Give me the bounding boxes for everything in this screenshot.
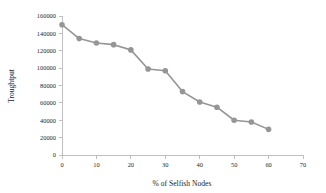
- data-point: [111, 42, 117, 48]
- data-point: [249, 119, 255, 125]
- x-tick-label: 0: [60, 161, 63, 168]
- x-tick-label: 70: [300, 161, 306, 168]
- y-tick-label: 20000: [40, 134, 56, 141]
- x-axis-title: % of Selfish Nodes: [153, 179, 212, 188]
- y-tick-label: 60000: [40, 99, 56, 106]
- data-point: [94, 40, 100, 46]
- data-point: [59, 22, 65, 28]
- y-axis-title: Troughtput: [7, 68, 16, 103]
- data-point: [214, 104, 220, 110]
- data-point: [145, 66, 151, 72]
- y-tick-label: 120000: [37, 47, 56, 54]
- y-tick-label: 80000: [40, 82, 56, 89]
- y-tick-label: 160000: [37, 12, 56, 19]
- x-tick-label: 20: [128, 161, 134, 168]
- data-point: [180, 89, 186, 95]
- data-point: [76, 36, 82, 42]
- data-point: [162, 68, 168, 74]
- data-point: [128, 47, 134, 53]
- data-point: [266, 127, 272, 133]
- x-tick-label: 40: [197, 161, 203, 168]
- line-chart: 0200004000060000800001000001200001400001…: [0, 0, 326, 193]
- x-tick-label: 60: [265, 161, 271, 168]
- x-tick-label: 30: [162, 161, 168, 168]
- data-point: [231, 117, 237, 123]
- y-tick-label: 40000: [40, 117, 56, 124]
- data-point: [197, 99, 203, 105]
- x-tick-label: 50: [231, 161, 237, 168]
- y-tick-label: 140000: [37, 30, 56, 37]
- y-tick-label: 0: [53, 151, 56, 158]
- chart-figure: 0200004000060000800001000001200001400001…: [0, 0, 326, 193]
- y-tick-label: 100000: [37, 64, 56, 71]
- y-tick-labels: 0200004000060000800001000001200001400001…: [37, 12, 56, 158]
- x-tick-label: 10: [93, 161, 99, 168]
